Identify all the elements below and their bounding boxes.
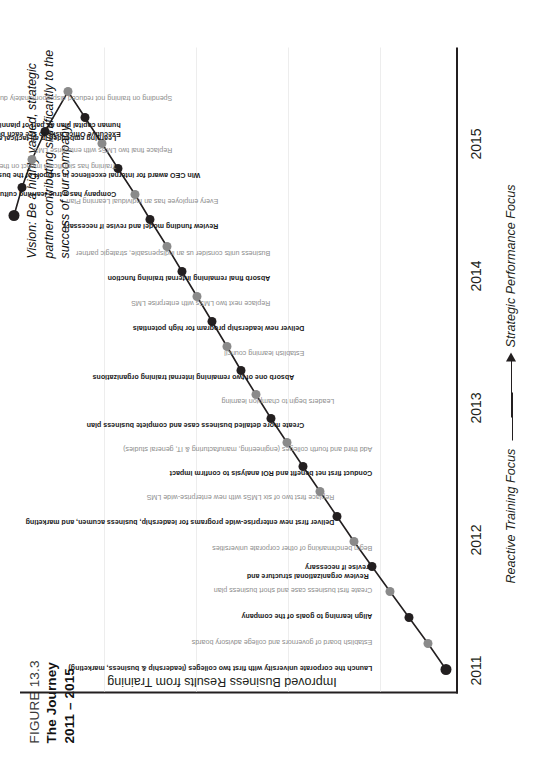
milestone-dot (441, 664, 452, 675)
y-axis-line (20, 691, 458, 693)
figure-title-line1: The Journey (43, 660, 60, 743)
milestone-label: Align learning to goals of the company (241, 611, 372, 620)
milestone-dot (424, 639, 433, 648)
figure-number: FIGURE 13.3 (26, 660, 43, 743)
figure-header: FIGURE 13.3 The Journey 2011 – 2015 (26, 660, 78, 743)
milestone-label: Conduct first net benefit and ROI analys… (170, 468, 373, 477)
milestone-label: Company has a true learning culture (0, 189, 116, 198)
milestone-label: Launch the corporate university with fir… (68, 663, 372, 672)
x-axis-line (456, 47, 458, 693)
milestone-label: Review organizational structure andrevis… (247, 562, 369, 579)
milestone-label: Learning embedded in all tactical and st… (0, 133, 116, 142)
footer-strategic-performance-focus: Strategic Performance Focus (504, 184, 518, 347)
milestone-label: Deliver first new enterprise-wide progra… (26, 517, 335, 526)
milestone-label: Spending on training not reduced disprop… (0, 93, 172, 102)
milestone-label: Leaders begin to champion learning (222, 396, 335, 405)
footer-reactive-training-focus: Reactive Training Focus (504, 448, 518, 583)
figure-page: FIGURE 13.3 The Journey 2011 – 2015 Visi… (0, 0, 558, 779)
milestone-label: Replace next two LMSs with enterprise LM… (131, 298, 270, 307)
gridline (196, 47, 197, 691)
milestone-dot (405, 613, 414, 622)
gridline (288, 47, 289, 691)
milestone-label: Begin benchmarking of other corporate un… (212, 543, 372, 552)
x-tick-2013: 2013 (468, 392, 484, 423)
x-tick-2012: 2012 (468, 524, 484, 555)
figure-title-line2: 2011 – 2015 (61, 660, 78, 743)
milestone-label: Replace final two LMSs with enterprise L… (34, 145, 173, 154)
milestone-dot (9, 210, 20, 221)
milestone-label: Absorb one of two remaining internal tra… (93, 372, 295, 381)
x-tick-2011: 2011 (468, 655, 484, 685)
milestone-label: Replace first two of six LMSs with new e… (147, 492, 335, 501)
milestone-dot (368, 562, 377, 571)
figure-stage: FIGURE 13.3 The Journey 2011 – 2015 Visi… (0, 0, 558, 779)
milestone-label: Review funding model and revise if neces… (63, 221, 218, 230)
x-tick-2014: 2014 (468, 260, 484, 291)
milestone-label: Business units consider us an indispensa… (76, 248, 270, 257)
y-axis-label: Improved Business Results from Training (72, 674, 372, 688)
milestone-label: Establish board of governors and college… (192, 637, 373, 646)
milestone-label: Create more detailed business case and c… (87, 420, 305, 429)
milestone-label: Win CEO award for internal excellence in… (0, 170, 200, 179)
arrow-line (511, 359, 512, 417)
milestone-label: Training has significant impact on the c… (0, 161, 116, 170)
milestone-label: Deliver new leadership program for high … (133, 323, 304, 332)
milestone-label: Add third and fourth colleges (engineeri… (123, 444, 372, 453)
milestone-label: Create first business case and short bus… (214, 585, 373, 594)
milestone-dot (386, 587, 395, 596)
milestone-label: Establish learning council (224, 348, 304, 357)
milestone-label: Absorb final remaining internal training… (108, 273, 271, 282)
gridline (380, 47, 381, 691)
x-tick-2015: 2015 (468, 128, 484, 159)
